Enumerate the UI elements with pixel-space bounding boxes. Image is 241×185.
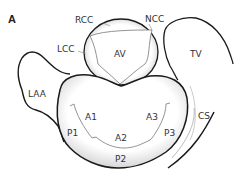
label-av: AV: [114, 49, 127, 59]
heart-valve-diagram: A RCC NCC LCC AV TV LAA CS A1 A2 A3 P1 P…: [0, 0, 241, 185]
ncc-leader: [149, 24, 152, 30]
label-a1: A1: [85, 112, 97, 122]
label-p1: P1: [67, 128, 78, 138]
label-laa: LAA: [28, 89, 47, 99]
panel-label: A: [8, 13, 16, 25]
label-lcc: LCC: [57, 44, 75, 54]
label-rcc: RCC: [75, 15, 93, 25]
label-cs: CS: [198, 111, 210, 121]
tricuspid-valve-outline-left: [164, 30, 178, 80]
label-a2: A2: [115, 133, 127, 143]
label-p2: P2: [115, 154, 126, 164]
label-ncc: NCC: [145, 14, 164, 24]
label-tv: TV: [189, 49, 202, 59]
label-a3: A3: [146, 112, 158, 122]
label-p3: P3: [164, 128, 175, 138]
